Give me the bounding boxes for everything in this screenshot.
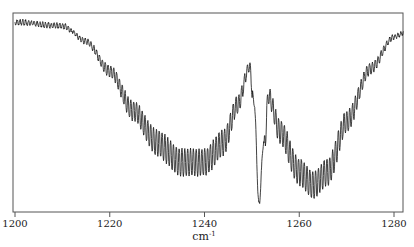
plot-frame xyxy=(13,13,403,212)
x-axis-ticks: 12001220124012601280 xyxy=(2,212,406,229)
spectrum-chart: 12001220124012601280 cm-1 xyxy=(0,0,414,247)
spectrum-line xyxy=(15,19,403,203)
x-tick-label: 1280 xyxy=(381,218,406,229)
x-axis-label: cm-1 xyxy=(192,230,215,243)
x-tick-label: 1220 xyxy=(97,218,122,229)
x-tick-label: 1260 xyxy=(287,218,312,229)
x-tick-label: 1200 xyxy=(2,218,27,229)
x-tick-label: 1240 xyxy=(192,218,217,229)
